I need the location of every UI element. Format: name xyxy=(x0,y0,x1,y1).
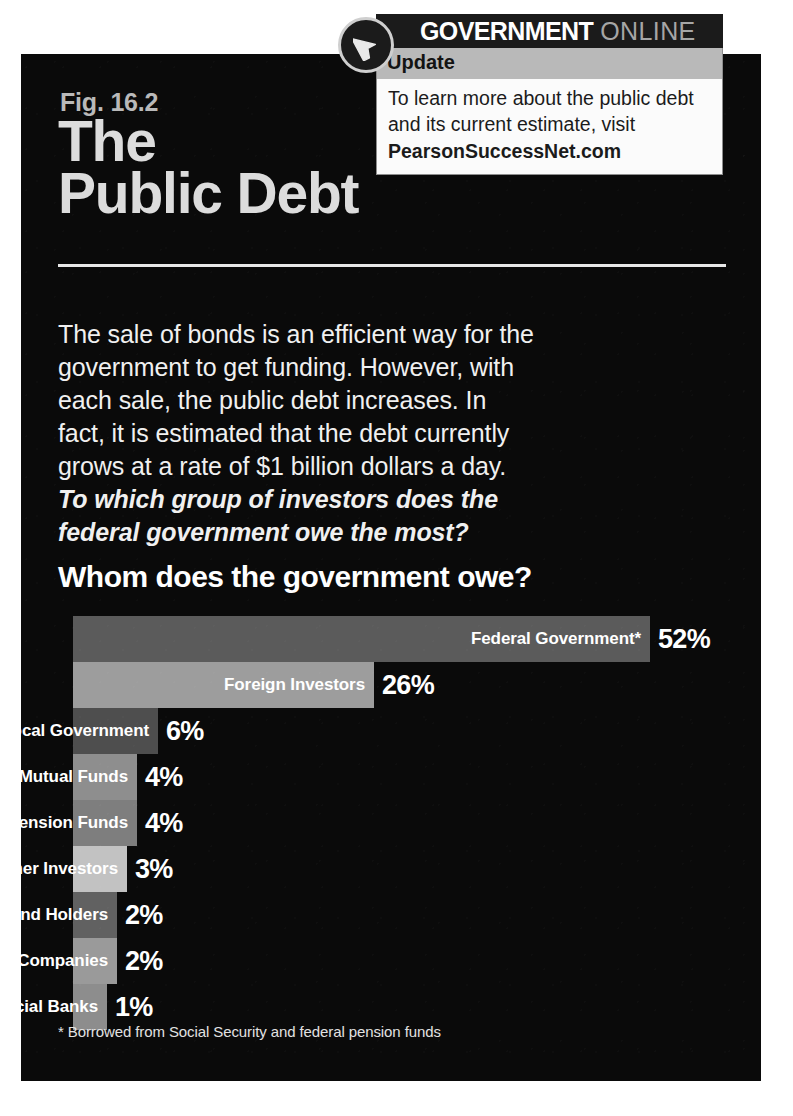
bar-row: Mutual Funds4% xyxy=(73,754,743,800)
bar-value-label: 3% xyxy=(135,846,173,892)
government-online-header: GOVERNMENT ONLINE xyxy=(376,14,723,48)
bar-category-label: Bond Holders xyxy=(0,905,117,925)
bar-label-group: Other Investors xyxy=(0,846,127,892)
bar-label-group: Foreign Investors xyxy=(224,662,374,708)
bar-value-label: 4% xyxy=(145,754,183,800)
bar-label-group: Insurance Companies xyxy=(0,938,117,984)
update-box: Update To learn more about the public de… xyxy=(376,48,723,175)
bar-row: Pension Funds4% xyxy=(73,800,743,846)
bar-label-group: Pension Funds xyxy=(7,800,137,846)
bar-label-group: State and Local Government xyxy=(0,708,158,754)
bar-category-label: Federal Government* xyxy=(471,629,650,649)
bar-value-label: 4% xyxy=(145,800,183,846)
pearson-success-net-link[interactable]: PearsonSuccessNet.com xyxy=(388,138,711,164)
bar-label-group: Bond Holders xyxy=(0,892,117,938)
government-online-callout: GOVERNMENT ONLINE Update To learn more a… xyxy=(376,14,723,175)
bar-category-label: State and Local Government xyxy=(0,721,158,741)
figure-body-text: The sale of bonds is an efficient way fo… xyxy=(58,318,536,549)
brand-online: ONLINE xyxy=(600,17,695,46)
bar-value-label: 6% xyxy=(166,708,204,754)
figure-title-line-1: The xyxy=(58,115,358,167)
bar-label-group: Federal Government* xyxy=(471,616,650,662)
bar-row: State and Local Government6% xyxy=(73,708,743,754)
figure-title-line-2: Public Debt xyxy=(58,167,358,219)
update-body-text: To learn more about the public debt and … xyxy=(388,87,694,135)
update-band-label: Update xyxy=(377,48,722,79)
bar-category-label: Mutual Funds xyxy=(19,767,137,787)
bar-category-label: Insurance Companies xyxy=(0,951,117,971)
bar-category-label: Pension Funds xyxy=(7,813,137,833)
bar-category-label: Other Investors xyxy=(0,859,127,879)
body-intro: The sale of bonds is an efficient way fo… xyxy=(58,320,534,480)
bar-row: Foreign Investors26% xyxy=(73,662,743,708)
bar-value-label: 26% xyxy=(382,662,434,708)
cursor-arrow-icon xyxy=(338,17,394,73)
update-body: To learn more about the public debt and … xyxy=(377,79,722,174)
chart-title: Whom does the government owe? xyxy=(58,560,532,594)
title-divider xyxy=(58,264,726,267)
bar-category-label: Commercial Banks xyxy=(0,997,107,1017)
bar-row: Bond Holders2% xyxy=(73,892,743,938)
bar-label-group: Mutual Funds xyxy=(19,754,137,800)
chart-footnote: * Borrowed from Social Security and fede… xyxy=(58,1023,441,1040)
figure-title: The Public Debt xyxy=(58,115,358,220)
brand-government: GOVERNMENT xyxy=(420,17,593,46)
bar-row: Insurance Companies2% xyxy=(73,938,743,984)
bar-value-label: 2% xyxy=(125,938,163,984)
bar-row: Federal Government*52% xyxy=(73,616,743,662)
bar-value-label: 2% xyxy=(125,892,163,938)
figure-panel: Fig. 16.2 The Public Debt The sale of bo… xyxy=(22,55,760,1080)
bar-chart: Federal Government*52%Foreign Investors2… xyxy=(73,616,743,1030)
bar-category-label: Foreign Investors xyxy=(224,675,374,695)
body-question: To which group of investors does the fed… xyxy=(58,485,498,546)
bar-value-label: 52% xyxy=(658,616,710,662)
bar-row: Other Investors3% xyxy=(73,846,743,892)
